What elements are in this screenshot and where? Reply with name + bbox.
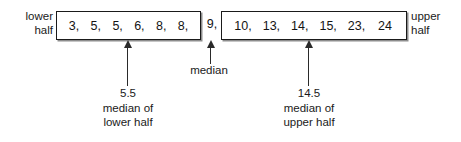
lower-half-median-caption: 5.5 median of lower half [83,86,173,130]
lower-half-median-line3: lower half [83,115,173,130]
arrow-up-icon-median [205,40,216,64]
upper-half-label: upper half [411,9,461,37]
upper-half-value-5: 23, [344,19,370,33]
lower-half-box: 3, 5, 5, 6, 8, 8, [56,11,201,40]
upper-half-median-value: 14.5 [263,86,355,101]
median-caption: median [183,63,235,78]
upper-half-value-6: 24 [372,19,398,33]
arrow-shaft [210,47,211,64]
upper-half-value-1: 10, [230,19,256,33]
median-quartile-diagram: lower half 3, 5, 5, 6, 8, 8, 9, 10, 13, … [0,0,461,142]
lower-half-value-3: 5, [108,19,128,33]
arrow-shaft [308,47,309,86]
upper-half-median-line2: median of [263,101,355,116]
lower-half-median-line2: median of [83,101,173,116]
lower-half-value-1: 3, [64,19,84,33]
upper-half-value-3: 14, [287,19,313,33]
upper-half-label-line2: half [411,23,461,37]
upper-half-value-4: 15, [315,19,341,33]
lower-half-median-value: 5.5 [83,86,173,101]
median-caption-line1: median [183,63,235,78]
upper-half-median-line3: upper half [263,115,355,130]
upper-half-median-caption: 14.5 median of upper half [263,86,355,130]
lower-half-label-line2: half [0,23,53,37]
arrow-up-icon-lower-median [122,40,133,86]
lower-half-value-5: 8, [151,19,171,33]
lower-half-value-4: 6, [129,19,149,33]
lower-half-label-line1: lower [0,9,53,23]
median-value: 9, [203,17,221,31]
lower-half-value-6: 8, [173,19,193,33]
lower-half-label: lower half [0,9,53,37]
arrow-up-icon-upper-median [303,40,314,86]
lower-half-value-2: 5, [86,19,106,33]
arrow-shaft [127,47,128,86]
upper-half-value-2: 13, [258,19,284,33]
upper-half-label-line1: upper [411,9,461,23]
upper-half-box: 10, 13, 14, 15, 23, 24 [221,11,407,40]
